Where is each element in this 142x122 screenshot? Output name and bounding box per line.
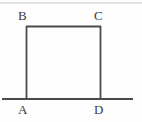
geometry-figure-canvas: B C A D: [0, 0, 142, 122]
vertex-label-c: C: [94, 9, 103, 22]
vertex-label-b: B: [18, 9, 27, 22]
vertex-label-d: D: [94, 103, 103, 116]
vertex-label-a: A: [18, 103, 27, 116]
